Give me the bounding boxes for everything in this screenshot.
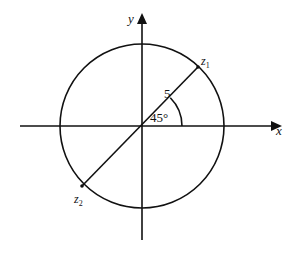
x-axis-label: x	[275, 123, 282, 138]
z2-label: z2	[73, 192, 83, 208]
y-axis-arrow-icon	[137, 13, 147, 24]
point-z2	[80, 184, 84, 188]
angle-label: 45°	[150, 110, 168, 125]
y-axis-label: y	[126, 11, 134, 26]
complex-plane-diagram: y x z1 z2 5 45°	[0, 0, 294, 255]
angle-arc	[170, 98, 182, 126]
point-z1	[196, 65, 200, 69]
radius-label: 5	[164, 86, 171, 101]
z1-label: z1	[200, 54, 210, 70]
